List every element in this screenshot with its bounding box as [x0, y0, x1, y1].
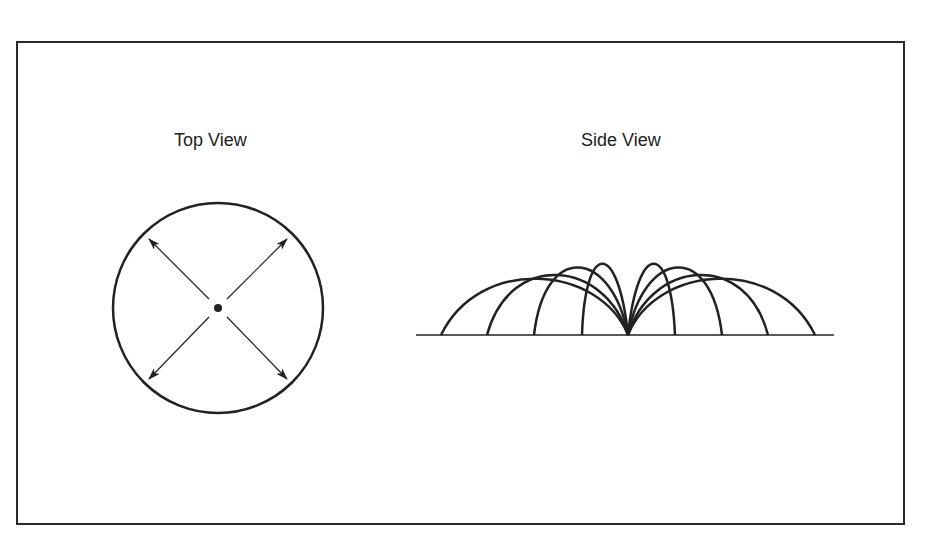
arrow-up-left-icon [149, 239, 209, 299]
arrow-down-left-icon [149, 317, 209, 379]
arrow-up-right-icon [227, 239, 287, 299]
side-view [416, 264, 834, 335]
trajectory-arc [582, 264, 628, 335]
trajectory-arc [534, 267, 628, 335]
center-dot [214, 304, 222, 312]
diagram-graphics [0, 0, 933, 545]
trajectory-arc [628, 264, 675, 335]
arrow-down-right-icon [227, 317, 287, 379]
top-view [113, 203, 323, 413]
